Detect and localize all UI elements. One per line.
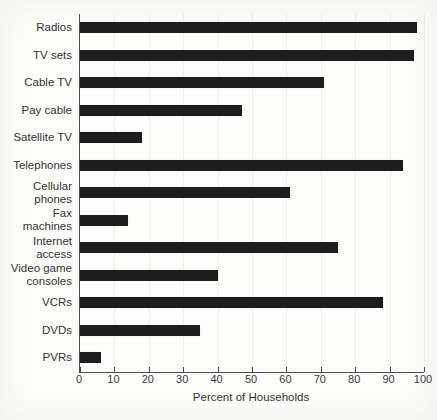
bar [80, 297, 383, 308]
x-axis-tick-mark [286, 367, 287, 372]
x-axis-title: Percent of Households [79, 391, 423, 403]
category-label: Cable TV [0, 69, 79, 97]
bar [80, 352, 101, 363]
bar [80, 22, 417, 33]
x-axis-tick-label: 90 [382, 373, 394, 385]
category-label: Telephones [0, 152, 79, 180]
x-axis-tick-label: 40 [210, 373, 222, 385]
category-labels-column: RadiosTV setsCable TVPay cableSatellite … [0, 14, 79, 373]
bar [80, 105, 242, 116]
x-axis-tick-mark [321, 367, 322, 372]
x-axis-tick-mark [252, 367, 253, 372]
category-label: TV sets [0, 42, 79, 70]
x-axis-tick-label: 10 [107, 373, 119, 385]
x-axis-tick-mark [218, 367, 219, 372]
gridline [424, 14, 425, 372]
category-label: Internet access [0, 234, 79, 262]
x-axis-tick-label: 60 [279, 373, 291, 385]
category-label: DVDs [0, 317, 79, 345]
bar [80, 160, 403, 171]
x-axis-tick-mark [149, 367, 150, 372]
plot-wrap: RadiosTV setsCable TVPay cableSatellite … [0, 14, 424, 373]
category-label: Video game consoles [0, 262, 79, 290]
bar [80, 325, 200, 336]
category-label: Cellular phones [0, 179, 79, 207]
bar [80, 187, 290, 198]
x-axis-tick-label: 0 [76, 373, 82, 385]
x-axis-tick-mark [80, 367, 81, 372]
gridline [390, 14, 391, 372]
gridline [321, 14, 322, 372]
x-axis-tick-label: 100 [414, 373, 432, 385]
x-axis-tick-mark [183, 367, 184, 372]
bar [80, 242, 338, 253]
category-label: Fax machines [0, 207, 79, 235]
category-label: Satellite TV [0, 124, 79, 152]
x-axis-tick-labels: 0102030405060708090100 [79, 373, 423, 387]
x-axis-tick-mark [390, 367, 391, 372]
category-label: VCRs [0, 289, 79, 317]
bar [80, 270, 218, 281]
bar [80, 215, 128, 226]
bar [80, 50, 414, 61]
x-axis-tick-label: 20 [142, 373, 154, 385]
gridline [355, 14, 356, 372]
category-label: Pay cable [0, 97, 79, 125]
bar [80, 132, 142, 143]
x-axis-tick-label: 30 [176, 373, 188, 385]
category-label: Radios [0, 14, 79, 42]
category-label: PVRs [0, 344, 79, 372]
x-axis-tick-mark [114, 367, 115, 372]
x-axis-tick-label: 80 [348, 373, 360, 385]
x-axis-tick-label: 70 [314, 373, 326, 385]
bar [80, 77, 324, 88]
x-axis-tick-label: 50 [245, 373, 257, 385]
x-axis-tick-mark [424, 367, 425, 372]
x-axis-tick-mark [355, 367, 356, 372]
households-media-bar-chart: RadiosTV setsCable TVPay cableSatellite … [0, 0, 437, 420]
plot-area [79, 14, 424, 373]
